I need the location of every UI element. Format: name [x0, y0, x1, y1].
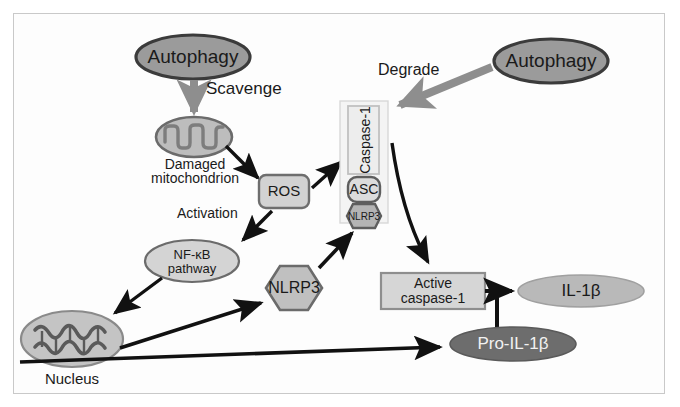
node-autophagy-left — [136, 35, 250, 79]
edge-nucleus-to-nlrp3 — [120, 303, 261, 348]
node-nlrp3-bound — [347, 204, 381, 228]
node-active-caspase1 — [381, 273, 485, 309]
pathway-figure: Autophagy Scavenge Damaged mitochondrion… — [0, 0, 680, 407]
pathway-canvas — [0, 0, 680, 407]
caspase1-label: Caspase-1 — [357, 84, 371, 197]
edge-mito-to-ros — [226, 146, 258, 178]
node-nfkb-pathway — [145, 240, 239, 282]
edge-activation — [243, 211, 272, 240]
edge-inflammasome-to-active-caspase1 — [392, 143, 428, 262]
node-damaged-mitochondrion — [156, 117, 232, 157]
node-ros — [259, 175, 309, 208]
node-il1b — [518, 275, 644, 307]
node-pro-il1b — [450, 327, 576, 361]
node-nlrp3-free — [266, 266, 322, 310]
edge-nfkb-to-nucleus — [115, 278, 162, 313]
degrade-label: Degrade — [378, 61, 439, 78]
activation-label: Activation — [177, 206, 238, 221]
edge-nlrp3-to-inflammasome — [319, 233, 352, 268]
scavenge-label: Scavenge — [206, 80, 282, 98]
edge-ros-to-inflammasome — [312, 162, 341, 188]
node-autophagy-right — [494, 39, 608, 83]
